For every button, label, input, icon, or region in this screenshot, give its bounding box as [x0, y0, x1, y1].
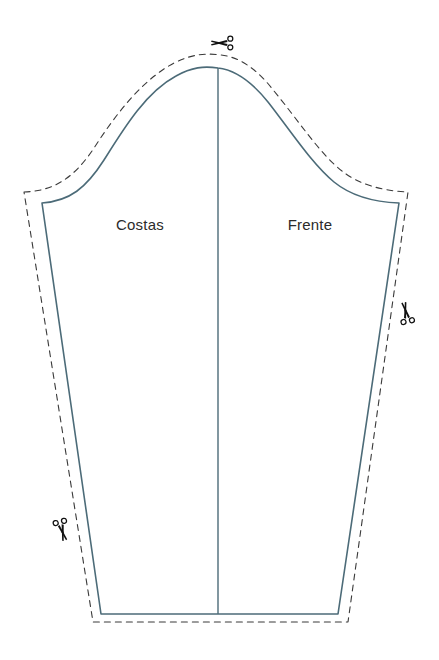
panel-label-costas: Costas: [116, 216, 164, 233]
scissors-pivot: [219, 42, 221, 44]
canvas-background: [0, 0, 439, 660]
pattern-diagram-stage: Costas Frente: [0, 0, 439, 660]
panel-label-frente: Frente: [288, 216, 333, 233]
sleeve-pattern-drawing: Costas Frente: [0, 0, 439, 660]
